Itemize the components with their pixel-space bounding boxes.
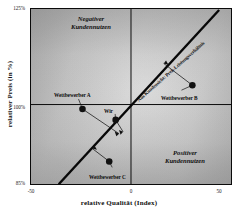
- x-axis-title: relative Qualität (Index): [0, 199, 238, 207]
- quadrant-positive-line2: Kundennutzen: [165, 157, 205, 164]
- quadrant-label-negative: Negativer Kundennutzen: [47, 15, 135, 32]
- quadrant-negative-line2: Kundennutzen: [71, 23, 111, 30]
- y-axis-tick-85: 85%: [1, 180, 25, 186]
- data-point-competitor-a[interactable]: [79, 106, 86, 113]
- data-point-competitor-c[interactable]: [106, 158, 113, 165]
- x-axis-tick-50: 50: [206, 188, 232, 194]
- point-label-us: Wir: [104, 108, 113, 114]
- quadrant-positive-line1: Positiver: [173, 149, 197, 156]
- plot-area: Negativer Kundennutzen Positiver Kundenn…: [30, 8, 232, 185]
- data-point-us[interactable]: [112, 117, 119, 124]
- quadrant-negative-line1: Negativer: [78, 15, 104, 22]
- y-axis-title: relativer Preis (in %): [6, 29, 14, 159]
- y-axis-tick-125: 125%: [1, 5, 25, 11]
- customer-value-map-figure: Negativer Kundennutzen Positiver Kundenn…: [0, 0, 238, 212]
- x-axis-tick-minus50: -50: [18, 188, 44, 194]
- point-label-competitor-b: Wettbewerber B: [161, 95, 197, 101]
- x-axis-tick-zero: 0: [118, 188, 144, 194]
- data-point-competitor-b[interactable]: [189, 82, 196, 89]
- point-label-competitor-a: Wettbewerber A: [54, 92, 90, 98]
- quadrant-label-positive: Positiver Kundennutzen: [143, 149, 227, 166]
- point-label-competitor-c: Wettbewerber C: [89, 174, 126, 180]
